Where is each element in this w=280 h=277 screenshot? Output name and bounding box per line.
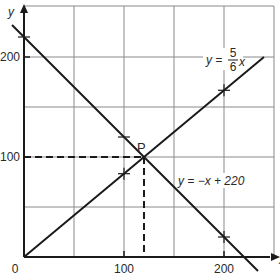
tick-label-origin: 0 — [12, 262, 19, 276]
axes — [20, 4, 280, 261]
grid — [24, 6, 274, 257]
line1-label: y = 5 6 x — [203, 46, 246, 74]
point-p-label: P — [137, 140, 146, 155]
y-axis-label: y — [7, 5, 15, 19]
chart: 0 100 200 100 200 y x P y = 5 6 x y = −x… — [0, 0, 280, 277]
line2-label: y = −x + 220 — [177, 173, 245, 188]
tick-label-x-200: 200 — [214, 262, 234, 276]
y-axis-arrow-icon — [20, 4, 28, 13]
tick-label-x-100: 100 — [114, 262, 134, 276]
tick-label-y-100: 100 — [0, 150, 20, 164]
tick-label-y-200: 200 — [0, 50, 20, 64]
svg-text:x: x — [238, 55, 246, 69]
x-axis-label: x — [278, 253, 280, 267]
svg-text:y =: y = — [205, 53, 226, 67]
chart-svg: 0 100 200 100 200 y x P y = 5 6 x y = −x… — [0, 0, 280, 277]
svg-text:y = −x + 220: y = −x + 220 — [177, 174, 245, 188]
svg-text:6: 6 — [230, 60, 237, 74]
svg-text:5: 5 — [230, 46, 237, 60]
